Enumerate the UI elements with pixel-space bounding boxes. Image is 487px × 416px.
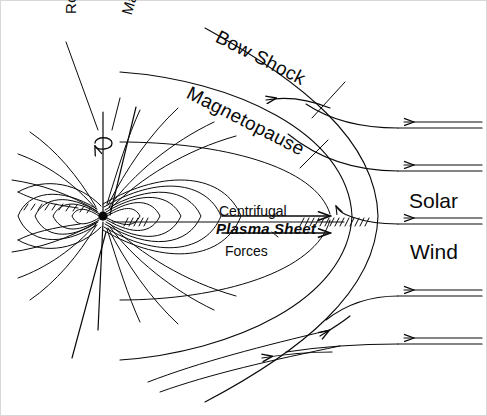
magnetosphere-diagram: Rotation Axis Magnetic Axis Bow Shock Ma… (0, 0, 487, 416)
label-rotation-axis: Rotation Axis (62, 0, 79, 14)
label-solar: Solar (409, 189, 458, 213)
planet-body (98, 211, 107, 220)
label-plasma-sheet: Plasma Sheet (216, 220, 316, 237)
label-centrifugal: Centrifugal (219, 203, 287, 219)
label-wind: Wind (410, 240, 458, 264)
label-forces: Forces (225, 243, 268, 259)
